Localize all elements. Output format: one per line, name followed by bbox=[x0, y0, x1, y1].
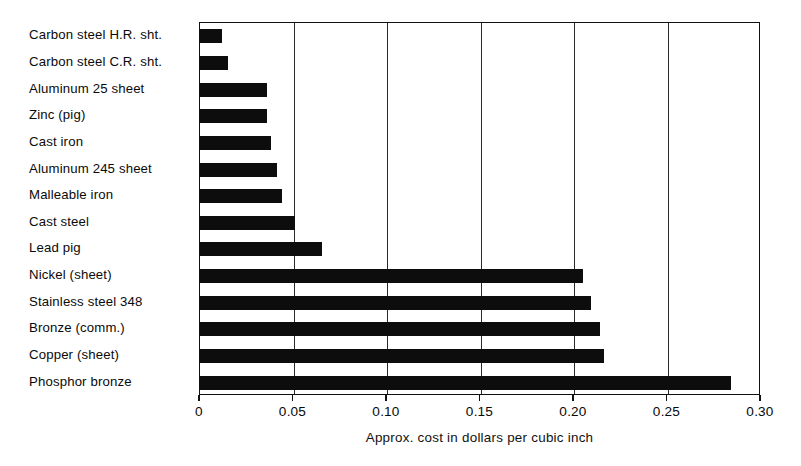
gridline bbox=[668, 23, 669, 394]
bar bbox=[200, 296, 591, 310]
gridline bbox=[481, 23, 482, 394]
bar bbox=[200, 163, 277, 177]
category-label: Stainless steel 348 bbox=[29, 295, 143, 309]
category-label: Phosphor bronze bbox=[29, 375, 132, 389]
x-tick-mark bbox=[292, 395, 293, 401]
bar bbox=[200, 109, 267, 123]
x-tick-label: 0.05 bbox=[279, 404, 306, 419]
gridline bbox=[387, 23, 388, 394]
category-label: Cast steel bbox=[29, 215, 89, 229]
category-label: Carbon steel C.R. sht. bbox=[29, 55, 162, 69]
gridline bbox=[574, 23, 575, 394]
bar bbox=[200, 189, 282, 203]
x-tick-label: 0.20 bbox=[559, 404, 586, 419]
x-tick-label: 0.30 bbox=[746, 404, 773, 419]
bar bbox=[200, 242, 322, 256]
bar bbox=[200, 376, 731, 390]
category-label: Nickel (sheet) bbox=[29, 268, 112, 282]
bar bbox=[200, 83, 267, 97]
bar bbox=[200, 269, 583, 283]
plot-inner bbox=[200, 23, 759, 394]
x-axis-title: Approx. cost in dollars per cubic inch bbox=[199, 430, 760, 445]
x-tick-label: 0.25 bbox=[653, 404, 680, 419]
x-tick-mark bbox=[572, 395, 573, 401]
category-label: Malleable iron bbox=[29, 188, 113, 202]
bar-chart: Carbon steel H.R. sht.Carbon steel C.R. … bbox=[0, 0, 801, 466]
x-tick-mark bbox=[198, 395, 199, 401]
x-tick-label: 0.15 bbox=[466, 404, 493, 419]
x-tick-label: 0 bbox=[195, 404, 203, 419]
x-tick-label: 0.10 bbox=[372, 404, 399, 419]
category-label: Bronze (comm.) bbox=[29, 321, 125, 335]
category-axis-labels: Carbon steel H.R. sht.Carbon steel C.R. … bbox=[29, 22, 194, 395]
bar bbox=[200, 322, 600, 336]
x-tick-mark bbox=[759, 395, 760, 401]
plot-area bbox=[199, 22, 760, 395]
category-label: Copper (sheet) bbox=[29, 348, 119, 362]
gridline bbox=[294, 23, 295, 394]
bar bbox=[200, 349, 604, 363]
category-label: Aluminum 245 sheet bbox=[29, 162, 152, 176]
x-tick-mark bbox=[666, 395, 667, 401]
bar bbox=[200, 136, 271, 150]
category-label: Aluminum 25 sheet bbox=[29, 82, 144, 96]
category-label: Cast iron bbox=[29, 135, 83, 149]
category-label: Zinc (pig) bbox=[29, 108, 85, 122]
bar bbox=[200, 56, 228, 70]
category-label: Lead pig bbox=[29, 241, 81, 255]
x-axis: 00.050.100.150.200.250.30 bbox=[199, 395, 760, 435]
bar bbox=[200, 216, 295, 230]
category-label: Carbon steel H.R. sht. bbox=[29, 28, 162, 42]
x-tick-mark bbox=[479, 395, 480, 401]
x-tick-mark bbox=[385, 395, 386, 401]
bar bbox=[200, 29, 222, 43]
